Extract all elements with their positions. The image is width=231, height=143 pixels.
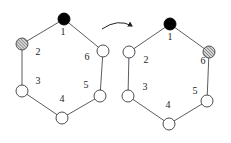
right-node-4 <box>163 118 175 130</box>
right-label-5: 5 <box>193 85 198 96</box>
right-label-2: 2 <box>144 54 149 65</box>
right-node-2 <box>123 46 135 58</box>
right-label-3: 3 <box>143 81 148 92</box>
right-label-1: 1 <box>168 31 173 42</box>
left-node-3 <box>16 85 28 97</box>
transition-arrow-icon <box>102 23 132 29</box>
left-hexagon: 1 2 3 4 5 6 <box>16 13 109 124</box>
left-node-4 <box>56 112 68 124</box>
left-label-4: 4 <box>60 93 65 104</box>
left-label-1: 1 <box>61 26 66 37</box>
left-node-2 <box>16 38 28 50</box>
left-node-1 <box>58 13 70 25</box>
right-label-6: 6 <box>201 55 206 66</box>
right-node-5 <box>201 95 213 107</box>
left-label-2: 2 <box>36 46 41 57</box>
left-label-5: 5 <box>84 79 89 90</box>
left-node-5 <box>94 90 106 102</box>
left-label-3: 3 <box>36 75 41 86</box>
left-label-6: 6 <box>85 51 90 62</box>
right-hexagon: 1 2 3 4 5 6 <box>122 18 215 130</box>
right-node-3 <box>122 90 134 102</box>
right-label-4: 4 <box>166 99 171 110</box>
left-node-6 <box>97 45 109 57</box>
hexagon-rotation-diagram: 1 2 3 4 5 6 1 2 3 4 5 6 <box>0 0 231 143</box>
right-node-1 <box>164 18 176 30</box>
